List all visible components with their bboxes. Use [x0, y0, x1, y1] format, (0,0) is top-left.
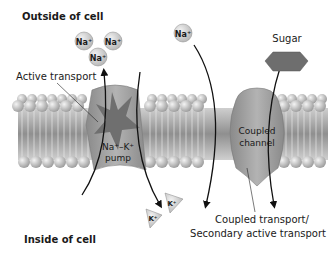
svg-text:K⁺: K⁺: [167, 200, 176, 208]
na-ion-label: Na⁺: [105, 38, 121, 47]
k-ions-inside: K⁺ K⁺: [146, 193, 183, 228]
na-ion-channel: Na⁺: [174, 24, 192, 42]
channel-label-line1: Coupled: [239, 126, 276, 136]
na-ions-outside: Na⁺ Na⁺ Na⁺: [75, 32, 122, 66]
channel-label-line2: channel: [239, 138, 275, 148]
inside-of-cell-label: Inside of cell: [24, 234, 96, 245]
pump-label-line2: pump: [105, 153, 131, 163]
coupled-channel: Coupled channel: [230, 88, 284, 186]
active-transport-label: Active transport: [16, 71, 96, 82]
coupled-transport-label-line1: Coupled transport/: [215, 214, 309, 225]
sugar-molecule: Sugar: [265, 33, 308, 71]
svg-text:Na⁺: Na⁺: [175, 30, 191, 39]
na-ion-label: Na⁺: [76, 38, 92, 47]
svg-text:K⁺: K⁺: [148, 215, 157, 223]
outside-of-cell-label: Outside of cell: [22, 11, 103, 22]
pump-label-line1: Na⁺–K⁺: [102, 142, 134, 152]
na-ion-label: Na⁺: [90, 54, 106, 63]
coupled-transport-label-line2: Secondary active transport: [190, 228, 326, 239]
sugar-label: Sugar: [272, 33, 302, 44]
membrane-transport-diagram: Na⁺–K⁺ pump Coupled channel Na⁺ Na⁺ Na⁺ …: [0, 0, 334, 257]
